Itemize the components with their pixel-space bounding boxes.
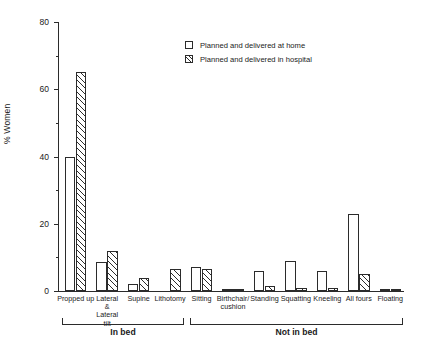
y-tick-label: 40 — [27, 152, 49, 162]
bar-hospital — [139, 278, 150, 291]
group-label-not-in-bed: Not in bed — [190, 327, 403, 337]
bar-home — [128, 284, 139, 291]
category-label: Floating — [366, 295, 414, 303]
y-tick-minor — [56, 190, 59, 191]
category-label-line: Floating — [366, 295, 414, 303]
bar-home — [222, 289, 233, 291]
group-bracket-in-bed — [62, 318, 184, 325]
bar-home — [317, 271, 328, 291]
bar-hospital — [233, 289, 244, 291]
category-label-line: cushion — [209, 303, 257, 311]
y-tick-label: 0 — [27, 286, 49, 296]
bar-hospital — [391, 289, 402, 291]
legend-swatch-hatched-icon — [185, 55, 193, 63]
y-tick-major — [54, 157, 59, 158]
bar-hospital — [76, 72, 87, 291]
bar-chart: % Women 806040200 Planned and delivered … — [0, 0, 423, 351]
legend-label-hospital: Planned and delivered in hospital — [200, 55, 312, 64]
y-tick-label: 80 — [27, 17, 49, 27]
y-tick-minor — [56, 56, 59, 57]
bar-home — [380, 289, 391, 291]
bar-home — [254, 271, 265, 291]
y-tick-major — [54, 89, 59, 90]
bar-hospital — [107, 251, 118, 291]
y-axis-title: % Women — [2, 54, 12, 144]
y-tick-label: 20 — [27, 219, 49, 229]
y-tick-minor — [56, 257, 59, 258]
group-label-in-bed: In bed — [62, 327, 184, 337]
bar-home — [191, 267, 202, 291]
x-axis-line — [58, 291, 404, 292]
bar-home — [96, 262, 107, 291]
y-tick-major — [54, 291, 59, 292]
bar-home — [348, 214, 359, 291]
y-tick-major — [54, 224, 59, 225]
legend-item-hospital: Planned and delivered in hospital — [185, 54, 312, 64]
bar-hospital — [328, 288, 339, 291]
y-tick-minor — [56, 123, 59, 124]
bar-hospital — [265, 286, 276, 291]
legend-label-home: Planned and delivered at home — [200, 41, 305, 50]
y-tick-major — [54, 22, 59, 23]
bar-hospital — [296, 288, 307, 291]
bar-hospital — [359, 274, 370, 291]
legend: Planned and delivered at home Planned an… — [185, 40, 312, 68]
bar-hospital — [202, 269, 213, 291]
bar-hospital — [170, 269, 181, 291]
legend-swatch-open-icon — [185, 41, 193, 49]
legend-item-home: Planned and delivered at home — [185, 40, 312, 50]
bar-home — [65, 157, 76, 292]
group-bracket-not-in-bed — [190, 318, 403, 325]
y-tick-label: 60 — [27, 84, 49, 94]
bar-home — [285, 261, 296, 291]
